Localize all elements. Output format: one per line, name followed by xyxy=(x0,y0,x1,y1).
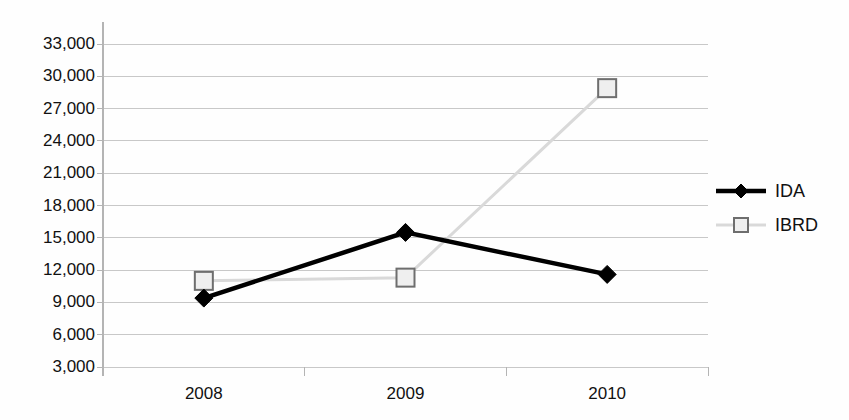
y-tick-label: 33,000 xyxy=(5,35,95,52)
axis-lines xyxy=(103,22,708,376)
series-line-ida xyxy=(204,232,607,298)
y-tick-label: 21,000 xyxy=(5,164,95,181)
y-tick-label: 6,000 xyxy=(5,326,95,343)
y-tick-label: 27,000 xyxy=(5,100,95,117)
y-tick-label: 3,000 xyxy=(5,358,95,375)
chart-canvas xyxy=(0,0,849,420)
x-tick-label: 2009 xyxy=(346,385,466,402)
legend-label-ida: IDA xyxy=(775,182,805,200)
y-tick-label: 12,000 xyxy=(5,261,95,278)
y-tick-label: 9,000 xyxy=(5,293,95,310)
line-chart: 3,0006,0009,00012,00015,00018,00021,0002… xyxy=(0,0,849,420)
legend-label-ibrd: IBRD xyxy=(775,216,818,234)
y-tick-label: 24,000 xyxy=(5,132,95,149)
y-tick-label: 30,000 xyxy=(5,67,95,84)
x-tick-label: 2008 xyxy=(144,385,264,402)
y-tick-label: 15,000 xyxy=(5,229,95,246)
gridlines xyxy=(103,44,708,367)
legend-markers xyxy=(716,184,766,232)
x-tick-label: 2010 xyxy=(547,385,667,402)
y-tick-label: 18,000 xyxy=(5,197,95,214)
series-markers-ibrd xyxy=(195,79,616,290)
x-tick-marks xyxy=(305,367,507,376)
y-tick-marks xyxy=(97,44,103,367)
series-line-ibrd xyxy=(204,88,607,281)
